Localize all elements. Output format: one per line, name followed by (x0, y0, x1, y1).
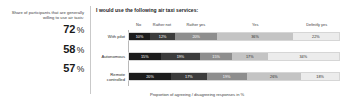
legend-item-yes: Yes (252, 22, 258, 27)
summary-value-number: 58 (63, 43, 75, 55)
bar-segment-definitly-yes: 18% (301, 73, 339, 80)
summary-value-number: 57 (63, 62, 75, 74)
summary-value-autonomous: 58% (4, 44, 84, 56)
bar-segment-rather-not: 19% (161, 53, 201, 60)
summary-value-unit: % (77, 45, 84, 55)
bar-row: With pilot 10%12%20%36%22% (128, 32, 340, 41)
bar-segment-no: 10% (129, 33, 150, 40)
legend-item-no: No (136, 22, 141, 27)
panel-divider (90, 6, 91, 94)
stacked-bar: 10%12%20%36%22% (128, 32, 340, 41)
summary-value-remote-controlled: 57% (4, 63, 84, 75)
chart-title: I would use the following air taxi servi… (96, 7, 198, 13)
bar-segment-value: 10% (136, 35, 144, 39)
bar-segment-yes: 36% (217, 33, 293, 40)
x-axis-label: Proportion of agreeing / disagreeing res… (150, 92, 244, 97)
bar-segment-rather-not: 17% (171, 73, 207, 80)
stacked-bar: 15%19%15%17%34% (128, 52, 340, 61)
bar-segment-value: 18% (316, 75, 324, 79)
bar-row-label: Autonomous (101, 54, 125, 59)
bar-segment-no: 15% (129, 53, 161, 60)
bar-segment-rather-yes: 20% (175, 33, 217, 40)
bar-row-label: Remote controlled (101, 71, 125, 81)
bar-segment-definitly-yes: 22% (293, 33, 339, 40)
summary-value-unit: % (77, 25, 84, 35)
summary-panel: Share of participants that are generally… (0, 0, 90, 112)
bar-segment-value: 26% (270, 75, 278, 79)
infographic-root: Share of participants that are generally… (0, 0, 342, 112)
bar-segment-value: 15% (141, 55, 149, 59)
legend-item-rather-not: Rather not (153, 22, 171, 27)
chart-panel: I would use the following air taxi servi… (92, 0, 342, 112)
summary-value-number: 72 (63, 23, 75, 35)
bar-segment-value: 19% (177, 55, 185, 59)
bar-segment-value: 36% (251, 35, 259, 39)
bar-segment-rather-yes: 19% (207, 73, 247, 80)
stacked-bar: 20%17%19%26%18% (128, 72, 340, 81)
bar-segment-value: 12% (159, 35, 167, 39)
bar-segment-value: 22% (312, 35, 320, 39)
bar-segment-value: 19% (223, 75, 231, 79)
chart-plot-area: With pilot 10%12%20%36%22% Autonomous 15… (128, 30, 340, 86)
summary-value-unit: % (77, 64, 84, 74)
legend-item-rather-yes: Rather yes (186, 22, 205, 27)
bar-segment-value: 17% (185, 75, 193, 79)
chart-legend: NoRather notRather yesYesDefinitly yes (128, 22, 340, 30)
bar-segment-value: 20% (192, 35, 200, 39)
bar-segment-value: 20% (146, 75, 154, 79)
bar-segment-rather-yes: 15% (200, 53, 232, 60)
bar-row: Autonomous 15%19%15%17%34% (128, 52, 340, 61)
bar-segment-rather-not: 12% (150, 33, 175, 40)
bar-segment-definitly-yes: 34% (268, 53, 339, 60)
bar-segment-value: 15% (212, 55, 220, 59)
bar-segment-value: 34% (299, 55, 307, 59)
bar-segment-value: 17% (246, 55, 254, 59)
bar-segment-yes: 17% (232, 53, 268, 60)
bar-segment-yes: 26% (247, 73, 302, 80)
bar-row-label: With pilot (108, 34, 125, 39)
bar-row: Remote controlled 20%17%19%26%18% (128, 72, 340, 81)
summary-value-with-pilot: 72% (4, 24, 84, 36)
legend-item-definitly-yes: Definitly yes (306, 22, 327, 27)
summary-value-list: 72% 58% 57% (4, 24, 84, 75)
summary-caption: Share of participants that are generally… (4, 10, 84, 20)
bar-segment-no: 20% (129, 73, 171, 80)
